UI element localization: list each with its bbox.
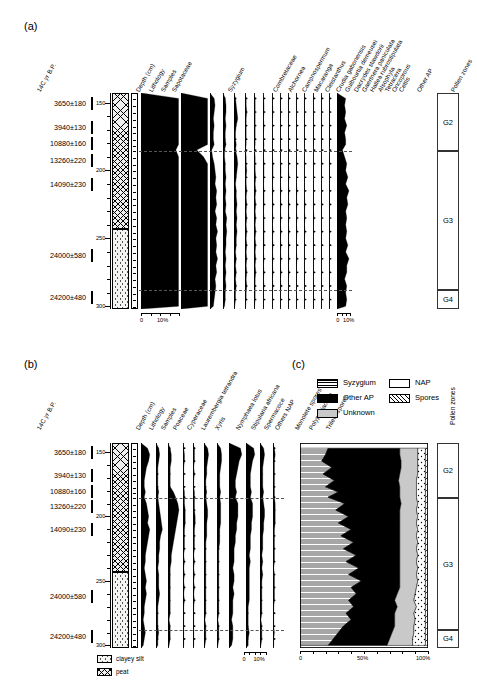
- taxon-label-syzygium: Syzygium: [226, 66, 246, 93]
- curve-laurembergia-tetrandra: [168, 443, 180, 648]
- depth-minor-tick: [107, 594, 110, 595]
- depth-minor-tick: [107, 542, 110, 543]
- date-label: 14090±230: [14, 525, 86, 534]
- sample-mark: [133, 569, 136, 570]
- date-marker: [91, 137, 93, 150]
- sample-mark: [133, 456, 136, 457]
- depth-tick-label: 150: [96, 449, 105, 455]
- curve-campnospermum: [234, 93, 243, 309]
- date-marker: [91, 97, 93, 110]
- sample-mark: [133, 133, 136, 134]
- zone-boundary-line: [139, 290, 352, 291]
- samples-column: [131, 443, 138, 648]
- depth-tick: [105, 581, 110, 582]
- date-label: 3650±180: [14, 99, 86, 108]
- sample-mark: [133, 550, 136, 551]
- curve-oncoprous: [321, 93, 327, 309]
- curve-others-nap: [229, 443, 243, 648]
- depth-tick-label: 250: [96, 235, 105, 241]
- curve-tetracera: [313, 93, 319, 309]
- sample-mark: [133, 185, 136, 186]
- sample-mark: [133, 488, 136, 489]
- curve-macaranga: [245, 93, 252, 309]
- sample-mark: [133, 627, 136, 628]
- date-label: 24000±580: [14, 592, 86, 601]
- depth-minor-tick: [107, 491, 110, 492]
- sample-mark: [133, 498, 136, 499]
- sample-mark: [133, 205, 136, 206]
- axis-header-14c-a: 14C yr B.P.: [35, 62, 57, 93]
- date-marker: [91, 178, 93, 191]
- sample-mark: [133, 640, 136, 641]
- legend-label-nap: NAP: [415, 378, 431, 387]
- depth-tick: [105, 645, 110, 646]
- x-scale-label-min: 0: [140, 317, 143, 323]
- sample-mark: [133, 199, 136, 200]
- date-marker: [91, 154, 93, 167]
- date-label: 13260±220: [14, 502, 86, 511]
- sample-mark: [133, 294, 136, 295]
- sample-mark: [133, 537, 136, 538]
- panel-c-tag: (c): [292, 358, 305, 370]
- sample-mark: [133, 608, 136, 609]
- pollen-zone-G4: G4: [437, 290, 459, 309]
- x-axis-ticks-c: [300, 651, 428, 654]
- curve-alsophyla: [304, 93, 310, 309]
- depth-tick: [105, 306, 110, 307]
- sample-mark: [133, 212, 136, 213]
- lithology-unit-clayey-silt: [112, 229, 129, 309]
- depth-minor-tick: [107, 529, 110, 530]
- date-marker: [91, 291, 93, 304]
- depth-minor-tick: [107, 279, 110, 280]
- axis-header-14c-b: 14C yr B.P.: [35, 400, 57, 431]
- x-scale-label-max-secondary: 10%: [343, 317, 354, 323]
- x-scale-ticks: [141, 313, 179, 316]
- sample-mark: [133, 634, 136, 635]
- samples-column: [131, 93, 138, 309]
- sample-mark: [133, 614, 136, 615]
- date-label: 3650±180: [14, 448, 86, 457]
- panel-b-tag: (b): [24, 358, 37, 370]
- taxon-label-xyris: Xyris: [213, 415, 226, 431]
- x-axis-label-0: 0: [299, 655, 302, 661]
- legend-label-syzygium: Syzygium: [343, 378, 376, 387]
- depth-tick-label: 200: [96, 513, 105, 519]
- lithology-unit-peat: [112, 443, 129, 572]
- depth-minor-tick: [107, 465, 110, 466]
- zone-boundary-line: [139, 151, 352, 152]
- legend-label-peat: peat: [116, 668, 128, 675]
- curve-cyperaceae: [156, 443, 166, 648]
- date-marker: [91, 485, 93, 498]
- sample-mark: [133, 127, 136, 128]
- sample-mark: [133, 287, 136, 288]
- depth-axis: [110, 443, 111, 648]
- curve-syzygium: [181, 93, 208, 309]
- curve-alchornea: [223, 93, 232, 309]
- depth-minor-tick: [107, 478, 110, 479]
- pollen-zone-G2: G2: [437, 443, 459, 498]
- depth-minor-tick: [107, 116, 110, 117]
- sample-mark: [133, 517, 136, 518]
- sample-mark: [133, 192, 136, 193]
- depth-minor-tick: [107, 130, 110, 131]
- sample-mark: [133, 481, 136, 482]
- x-scale-label-max: 10%: [254, 656, 265, 662]
- depth-tick-label: 150: [96, 100, 105, 106]
- sample-mark: [133, 178, 136, 179]
- curve-poaceae: [141, 443, 153, 648]
- sample-mark: [133, 233, 136, 234]
- legend-swatch-syzygium: [317, 379, 338, 388]
- curve-polypodiaceae: [260, 443, 270, 648]
- curve-dacrydes-stawdorii: [280, 93, 286, 309]
- depth-minor-tick: [107, 266, 110, 267]
- depth-minor-tick: [107, 633, 110, 634]
- pollen-zone-G4: G4: [437, 630, 459, 648]
- date-marker: [91, 523, 93, 536]
- curve-celtis: [329, 93, 335, 309]
- panel-a-tag: (a): [24, 20, 37, 32]
- sample-mark: [133, 158, 136, 159]
- depth-minor-tick: [107, 211, 110, 212]
- sample-mark: [133, 462, 136, 463]
- pollen-zone-G3: G3: [437, 151, 459, 290]
- sample-mark: [133, 475, 136, 476]
